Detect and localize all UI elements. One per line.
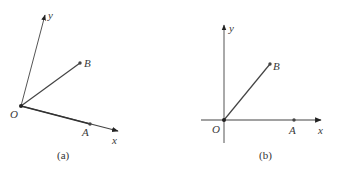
panel-b-caption: (b) bbox=[259, 150, 272, 161]
panel-a-O-label: O bbox=[10, 109, 18, 120]
coordinate-systems-figure: y B O A x (a) y B O A x (b) bbox=[0, 0, 337, 172]
panel-a-point-O bbox=[19, 104, 23, 108]
panel-b-point-O bbox=[222, 118, 226, 122]
panel-b-point-B bbox=[268, 62, 271, 65]
panel-b-x-label: x bbox=[318, 125, 323, 136]
panel-a-A-label: A bbox=[82, 127, 89, 138]
panel-b-O-label: O bbox=[212, 124, 220, 135]
panel-a bbox=[19, 15, 118, 131]
panel-b-A-label: A bbox=[289, 125, 296, 136]
panel-b-y-label: y bbox=[229, 23, 234, 34]
panel-a-x-label: x bbox=[112, 135, 117, 146]
panel-a-segment-OB bbox=[21, 63, 80, 106]
panel-b-B-label: B bbox=[273, 61, 280, 72]
panel-a-caption: (a) bbox=[57, 150, 69, 161]
panel-a-segment-OA bbox=[21, 106, 90, 124]
panel-a-y-axis bbox=[21, 15, 45, 106]
panel-a-B-label: B bbox=[84, 58, 91, 69]
panel-a-point-B bbox=[78, 61, 81, 64]
panel-b-segment-OB bbox=[224, 64, 270, 120]
panel-a-y-label: y bbox=[48, 10, 53, 21]
panel-b-point-A bbox=[292, 118, 295, 121]
figure-canvas bbox=[0, 0, 337, 172]
